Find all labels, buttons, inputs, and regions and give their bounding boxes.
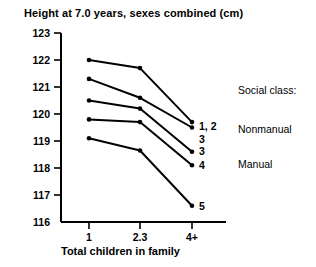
data-point [138, 96, 143, 101]
legend-heading: Social class: [238, 85, 296, 96]
chart-figure: Height at 7.0 years, sexes combined (cm)… [0, 0, 316, 267]
y-tick-label-119: 119 [24, 136, 50, 147]
legend-manual: Manual [238, 159, 272, 170]
y-tick-label-116: 116 [24, 217, 50, 228]
y-tick-label-118: 118 [24, 163, 50, 174]
series-line-4 [87, 136, 195, 208]
data-point [87, 77, 92, 82]
series-label-4: 4 [199, 160, 205, 171]
series-label-5: 5 [199, 201, 205, 212]
x-tick-label-4plus: 4+ [181, 232, 203, 243]
x-axis-title: Total children in family [61, 245, 180, 257]
data-point [190, 120, 195, 125]
data-point [138, 106, 143, 111]
x-axis-ticks [89, 222, 192, 229]
data-point [87, 117, 92, 122]
series-label-1-2: 1, 2 [199, 121, 217, 132]
data-point [138, 148, 143, 153]
series-layer [87, 58, 195, 208]
y-tick-label-120: 120 [24, 109, 50, 120]
x-tick-label-1: 1 [79, 232, 99, 243]
y-axis-ticks [54, 33, 61, 195]
data-point [190, 163, 195, 168]
data-point [138, 120, 143, 125]
series-label-3-nonmanual: 3 [199, 134, 205, 145]
series-line-0 [87, 58, 195, 125]
data-point [87, 136, 92, 141]
y-tick-label-121: 121 [24, 82, 50, 93]
data-point [190, 150, 195, 155]
y-tick-label-122: 122 [24, 55, 50, 66]
data-point [190, 125, 195, 130]
series-label-3-manual: 3 [199, 146, 205, 157]
y-tick-label-117: 117 [24, 190, 50, 201]
y-tick-label-123: 123 [24, 28, 50, 39]
data-point [87, 98, 92, 103]
legend-nonmanual: Nonmanual [238, 124, 292, 135]
data-point [87, 58, 92, 63]
data-point [138, 66, 143, 71]
data-point [190, 204, 195, 209]
x-tick-label-2-3: 2.3 [128, 232, 152, 243]
